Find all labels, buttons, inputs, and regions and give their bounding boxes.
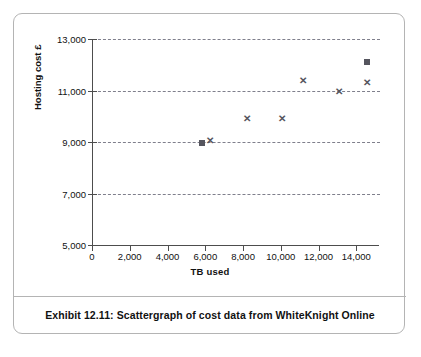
y-axis-title: Hosting cost £ bbox=[32, 45, 43, 110]
gridline bbox=[93, 194, 380, 195]
data-point-cross: ✕ bbox=[277, 113, 286, 122]
gridline bbox=[93, 142, 380, 143]
data-point-cross: ✕ bbox=[243, 113, 252, 122]
y-tick-label: 11,000 bbox=[40, 85, 86, 96]
y-tick-label: 9,000 bbox=[40, 137, 86, 148]
x-axis-line bbox=[92, 245, 379, 246]
y-tick-label: 13,000 bbox=[40, 34, 86, 45]
exhibit-figure-frame: 5,0007,0009,00011,00013,000 02,0004,0006… bbox=[13, 13, 405, 334]
data-point-cross: ✕ bbox=[334, 87, 343, 96]
y-tick-label: 5,000 bbox=[40, 240, 86, 251]
y-tick-mark bbox=[88, 142, 97, 143]
caption-bar: Exhibit 12.11: Scattergraph of cost data… bbox=[14, 296, 406, 333]
exhibit-caption: Exhibit 12.11: Scattergraph of cost data… bbox=[45, 309, 375, 321]
y-tick-mark bbox=[88, 194, 97, 195]
data-point-cross: ✕ bbox=[205, 135, 214, 144]
x-axis-title: TB used bbox=[14, 266, 406, 277]
gridline bbox=[93, 39, 380, 40]
scatter-plot-area: 5,0007,0009,00011,00013,000 02,0004,0006… bbox=[14, 14, 406, 298]
data-point-square bbox=[364, 59, 370, 65]
y-tick-label: 7,000 bbox=[40, 188, 86, 199]
x-tick-label: 14,000 bbox=[334, 251, 378, 262]
data-point-cross: ✕ bbox=[362, 78, 371, 87]
data-point-cross: ✕ bbox=[299, 75, 308, 84]
y-tick-mark bbox=[88, 39, 97, 40]
y-tick-mark bbox=[88, 91, 97, 92]
